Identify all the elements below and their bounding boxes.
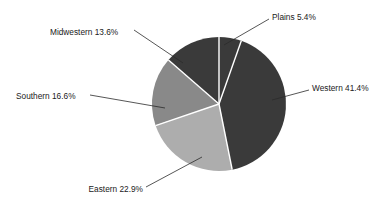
pie-chart-canvas: Plains 5.4%Western 41.4%Eastern 22.9%Sou… [0, 0, 386, 205]
leader-line-eastern [146, 157, 202, 187]
leader-line-plains [224, 19, 269, 45]
slice-label-eastern: Eastern 22.9% [89, 184, 144, 194]
slice-label-midwestern: Midwestern 13.6% [50, 27, 119, 37]
leader-line-midwestern [134, 30, 183, 63]
pie-chart-figure: Plains 5.4%Western 41.4%Eastern 22.9%Sou… [0, 0, 386, 205]
slice-label-plains: Plains 5.4% [272, 12, 316, 22]
slice-label-western: Western 41.4% [312, 83, 369, 93]
slice-label-southern: Southern 16.6% [16, 91, 76, 101]
